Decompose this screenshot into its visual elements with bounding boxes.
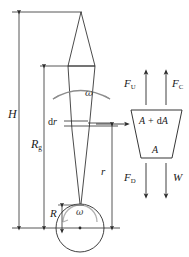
rotation-sweep-arc bbox=[53, 91, 110, 100]
label-area-bottom: A bbox=[152, 145, 158, 155]
hub-center-dot bbox=[79, 227, 82, 230]
label-R: R bbox=[50, 208, 57, 219]
blade-outline-left bbox=[68, 12, 81, 204]
rotation-sweep-arc-tick-right bbox=[105, 96, 110, 99]
label-r: r bbox=[101, 166, 105, 177]
hub-rotation-arc-tick bbox=[63, 220, 68, 222]
label-dr-r: r bbox=[53, 116, 57, 127]
label-FD-subscript: D bbox=[131, 177, 136, 184]
label-Rg: Rg bbox=[31, 138, 42, 151]
figure-canvas: H Rg R r ddrr ω ω FU FC FD W A+dAdA A bbox=[0, 0, 189, 257]
label-FC: FC bbox=[172, 78, 183, 90]
label-FU-subscript: U bbox=[131, 83, 136, 90]
label-Rg-subscript: g bbox=[38, 143, 42, 152]
label-omega-blade: ω bbox=[85, 88, 93, 98]
label-FD: FD bbox=[124, 172, 136, 184]
area-top-dA: A bbox=[162, 115, 168, 126]
blade-outline-right bbox=[81, 12, 95, 204]
label-W: W bbox=[173, 172, 182, 183]
diagram-svg bbox=[0, 0, 189, 257]
label-omega-hub: ω bbox=[76, 208, 83, 217]
label-FU: FU bbox=[124, 78, 136, 90]
label-FC-subscript: C bbox=[179, 83, 184, 90]
label-H: H bbox=[8, 108, 17, 120]
rotation-sweep-arc-tick-left bbox=[53, 96, 58, 99]
area-top-plus: + bbox=[145, 115, 157, 126]
label-dr: ddrr bbox=[48, 117, 57, 127]
label-area-top: A+dAdA bbox=[139, 116, 168, 126]
